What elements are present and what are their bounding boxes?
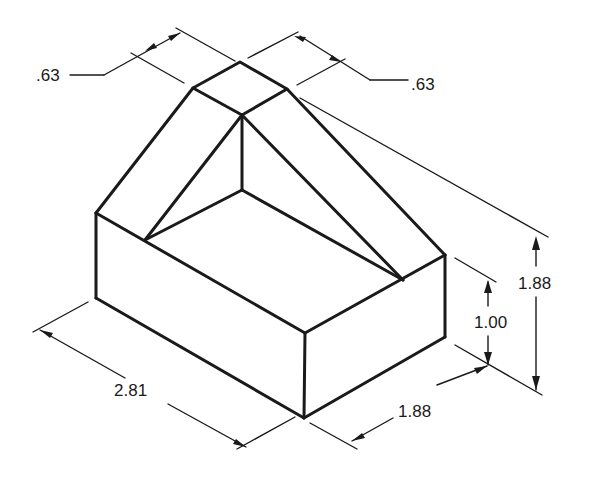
left-slope-outer-edge: [96, 88, 193, 213]
box-top-front-right: [305, 255, 445, 333]
left-slope-inner-edge: [145, 115, 242, 240]
dim-label-length: 2.81: [114, 381, 147, 400]
dim-label-top-right: .63: [411, 75, 435, 94]
dim-label-depth: 1.88: [398, 402, 431, 421]
dimension-length: 2.81: [33, 302, 295, 449]
object-outline: [96, 62, 445, 418]
dimension-top-left: .63: [36, 28, 235, 85]
inner-floor-back-edge: [242, 190, 403, 280]
dim-label-overall-height: 1.88: [518, 274, 551, 293]
dimension-depth: 1.88: [310, 366, 487, 449]
box-front-vertical: [304, 333, 305, 418]
dim-label-top-left: .63: [36, 66, 60, 85]
dim-label-base-height: 1.00: [474, 313, 507, 332]
isometric-drawing: .63 .63 1.88 1.00 1.88: [0, 0, 601, 486]
dimension-top-right: .63: [248, 32, 435, 94]
inner-floor-left-edge: [145, 190, 242, 240]
right-slope-inner-edge: [242, 115, 403, 280]
ridge-top-face: [193, 62, 287, 115]
